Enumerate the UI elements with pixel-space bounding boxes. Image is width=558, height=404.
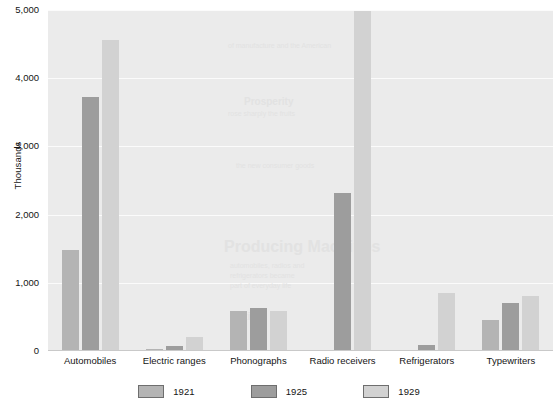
bar: [270, 311, 287, 351]
y-tick-label: 3,000: [15, 141, 39, 151]
bar: [522, 296, 539, 351]
x-axis-category-labels: AutomobilesElectric rangesPhonographsRad…: [48, 354, 553, 372]
x-tick-label: Radio receivers: [310, 354, 376, 367]
legend-swatch: [138, 385, 164, 398]
plot-area: Producing Machinesof manufacture and the…: [48, 10, 553, 351]
legend-item: 1929: [363, 385, 420, 398]
y-axis-tick-labels: 01,0002,0003,0004,0005,000: [0, 0, 46, 404]
bar: [102, 40, 119, 351]
x-tick-label: Refrigerators: [399, 354, 454, 367]
y-tick-label: 1,000: [15, 278, 39, 288]
bar: [186, 337, 203, 351]
x-tick-label: Electric ranges: [143, 354, 206, 367]
y-tick-label: 2,000: [15, 210, 39, 220]
legend-label: 1925: [286, 386, 308, 397]
x-tick-label: Phonographs: [230, 354, 287, 367]
legend-swatch: [363, 385, 389, 398]
legend-label: 1921: [173, 386, 195, 397]
legend-label: 1929: [398, 386, 420, 397]
y-tick-label: 5,000: [15, 5, 39, 15]
y-tick-label: 0: [34, 346, 39, 356]
bar: [482, 320, 499, 351]
bar: [438, 293, 455, 351]
legend-item: 1925: [251, 385, 308, 398]
bar-chart: Thousands 01,0002,0003,0004,0005,000 Pro…: [0, 0, 558, 404]
bar: [250, 308, 267, 351]
legend-swatch: [251, 385, 277, 398]
bar: [354, 11, 371, 351]
bar: [82, 97, 99, 351]
x-tick-label: Typewriters: [487, 354, 536, 367]
bar: [334, 193, 351, 351]
legend-item: 1921: [138, 385, 195, 398]
bar: [230, 311, 247, 351]
x-tick-label: Automobiles: [64, 354, 116, 367]
bars: [48, 10, 553, 351]
x-axis-baseline: [48, 350, 553, 351]
bar: [62, 250, 79, 351]
y-tick-label: 4,000: [15, 73, 39, 83]
chart-legend: 192119251929: [0, 381, 558, 401]
bar: [502, 303, 519, 351]
